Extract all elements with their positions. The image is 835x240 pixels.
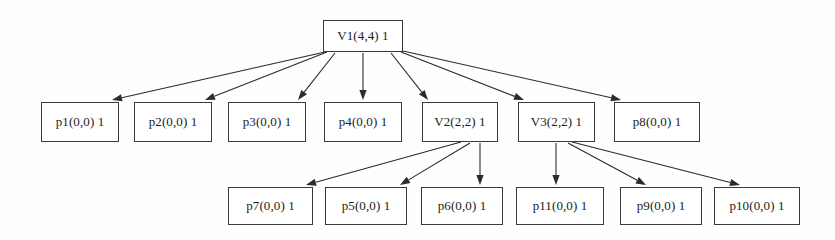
arrowhead-V2-to-p7 xyxy=(306,179,317,186)
tree-node-label-p4: p4(0,0) 1 xyxy=(339,114,388,130)
tree-node-v3[interactable]: V3(2,2) 1 xyxy=(518,102,595,142)
edge-V1-to-V3 xyxy=(401,52,515,96)
tree-node-v1[interactable]: V1(4,4) 1 xyxy=(323,20,403,52)
edge-V1-to-p2 xyxy=(214,52,327,96)
tree-node-label-p6: p6(0,0) 1 xyxy=(438,198,487,214)
arrowhead-V1-to-p2 xyxy=(205,93,216,100)
edge-V2-to-p7 xyxy=(316,142,461,182)
tree-node-p10[interactable]: p10(0,0) 1 xyxy=(714,187,800,225)
arrowhead-V1-to-p1 xyxy=(112,94,123,101)
tree-node-p2[interactable]: p2(0,0) 1 xyxy=(134,102,212,142)
edge-layer xyxy=(0,0,835,240)
tree-node-label-p7: p7(0,0) 1 xyxy=(246,198,295,214)
tree-diagram-canvas: V1(4,4) 1p1(0,0) 1p2(0,0) 1p3(0,0) 1p4(0… xyxy=(0,0,835,240)
tree-node-label-p5: p5(0,0) 1 xyxy=(342,198,391,214)
arrowhead-V1-to-p3 xyxy=(298,90,307,100)
arrowhead-V3-to-p9 xyxy=(635,177,646,185)
tree-node-p8[interactable]: p8(0,0) 1 xyxy=(614,102,700,142)
arrowhead-V1-to-V3 xyxy=(513,93,524,100)
tree-node-p9[interactable]: p9(0,0) 1 xyxy=(620,187,702,225)
arrowhead-V2-to-p6 xyxy=(476,175,483,185)
tree-node-label-p10: p10(0,0) 1 xyxy=(729,198,784,214)
tree-node-label-p9: p9(0,0) 1 xyxy=(637,198,686,214)
tree-node-label-v3: V3(2,2) 1 xyxy=(531,114,582,130)
tree-node-p11[interactable]: p11(0,0) 1 xyxy=(516,187,604,225)
tree-node-label-v2: V2(2,2) 1 xyxy=(434,114,485,130)
arrowhead-V3-to-p11 xyxy=(552,175,559,185)
tree-node-label-p1: p1(0,0) 1 xyxy=(56,114,105,130)
arrowhead-V1-to-p8 xyxy=(610,94,621,101)
arrowhead-V1-to-p4 xyxy=(359,90,366,100)
tree-node-p3[interactable]: p3(0,0) 1 xyxy=(228,102,306,142)
tree-node-label-p8: p8(0,0) 1 xyxy=(633,114,682,130)
arrowhead-V3-to-p10 xyxy=(729,179,740,186)
edge-V3-to-p10 xyxy=(572,142,730,183)
edge-V1-to-p1 xyxy=(122,52,325,98)
tree-node-p7[interactable]: p7(0,0) 1 xyxy=(228,187,313,225)
tree-node-p1[interactable]: p1(0,0) 1 xyxy=(41,102,119,142)
tree-node-p4[interactable]: p4(0,0) 1 xyxy=(324,102,402,142)
tree-node-label-p3: p3(0,0) 1 xyxy=(243,114,292,130)
arrowhead-V1-to-V2 xyxy=(419,90,428,100)
tree-node-label-v1: V1(4,4) 1 xyxy=(337,28,388,44)
edge-V3-to-p9 xyxy=(568,143,637,180)
edge-V1-to-p8 xyxy=(403,51,611,98)
tree-node-v2[interactable]: V2(2,2) 1 xyxy=(422,102,498,142)
tree-node-label-p2: p2(0,0) 1 xyxy=(149,114,198,130)
tree-node-label-p11: p11(0,0) 1 xyxy=(533,198,588,214)
tree-node-p6[interactable]: p6(0,0) 1 xyxy=(421,187,503,225)
tree-node-p5[interactable]: p5(0,0) 1 xyxy=(325,187,407,225)
arrowhead-V2-to-p5 xyxy=(400,177,410,185)
